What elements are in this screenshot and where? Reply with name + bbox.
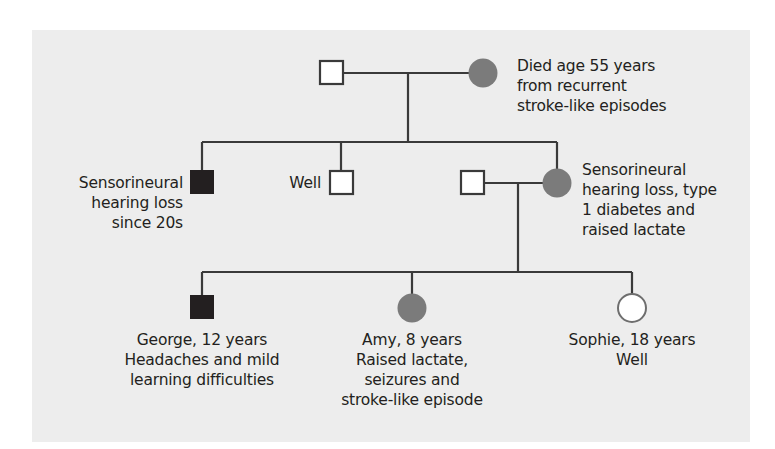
sophie-circle-icon <box>618 294 646 322</box>
label-line: seizures and <box>322 370 502 390</box>
grandmother-circle-icon <box>469 59 498 88</box>
label-line: learning difficulties <box>112 370 292 390</box>
daughter-label: Sensorineural hearing loss, type 1 diabe… <box>582 160 717 240</box>
george-label: George, 12 years Headaches and mild lear… <box>112 330 292 390</box>
label-line: hearing loss, type <box>582 180 717 200</box>
label-line: George, 12 years <box>112 330 292 350</box>
sophie-label: Sophie, 18 years Well <box>552 330 712 370</box>
son-well-label: Well <box>289 173 321 193</box>
label-line: Amy, 8 years <box>322 330 502 350</box>
label-line: Sensorineural <box>79 173 183 193</box>
grandfather-square-icon <box>320 61 343 84</box>
label-line: Sensorineural <box>582 160 717 180</box>
label-line: 1 diabetes and <box>582 200 717 220</box>
label-line: Raised lactate, <box>322 350 502 370</box>
son-affected-label: Sensorineural hearing loss since 20s <box>79 173 183 233</box>
son-well-square-icon <box>330 171 353 194</box>
label-line: Died age 55 years <box>517 56 666 76</box>
label-line: Sophie, 18 years <box>552 330 712 350</box>
label-line: hearing loss <box>79 193 183 213</box>
amy-circle-icon <box>398 294 427 323</box>
daughter-spouse-square-icon <box>461 171 484 194</box>
label-line: since 20s <box>79 213 183 233</box>
label-line: from recurrent <box>517 76 666 96</box>
label-line: stroke-like episodes <box>517 96 666 116</box>
label-line: Well <box>552 350 712 370</box>
daughter-circle-icon <box>543 169 572 198</box>
label-line: stroke-like episode <box>322 390 502 410</box>
label-line: raised lactate <box>582 220 717 240</box>
label-line: Well <box>289 173 321 193</box>
label-line: Headaches and mild <box>112 350 292 370</box>
amy-label: Amy, 8 years Raised lactate, seizures an… <box>322 330 502 410</box>
george-square-icon <box>190 295 214 319</box>
son-affected-square-icon <box>190 170 214 194</box>
grandmother-label: Died age 55 years from recurrent stroke-… <box>517 56 666 116</box>
